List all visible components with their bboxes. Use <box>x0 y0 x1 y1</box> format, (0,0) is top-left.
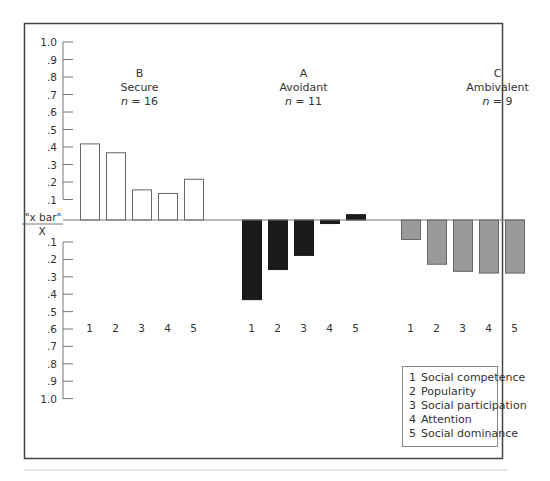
attachment-bar-chart: 1.0.9.8.7.6.5.4.3.2.1.1.2.3.4.5.6.7.8.91… <box>0 0 550 481</box>
x-tick-label: 5 <box>511 322 518 334</box>
y-tick-label: .2 <box>47 176 57 188</box>
x-tick-label: 2 <box>274 322 281 334</box>
y-tick-label: .8 <box>47 71 57 83</box>
x-tick-label: 5 <box>190 322 197 334</box>
group-name: Secure <box>121 81 159 94</box>
y-tick-label: .8 <box>47 358 57 370</box>
bar-avoidant-4 <box>321 220 340 224</box>
x-tick-label: 3 <box>459 322 466 334</box>
bar-avoidant-2 <box>269 220 288 270</box>
y-tick-label: .2 <box>47 253 57 265</box>
group-name: Avoidant <box>279 81 328 94</box>
y-tick-label: .6 <box>47 106 57 118</box>
group-code: B <box>136 67 144 80</box>
x-tick-label: 1 <box>86 322 93 334</box>
x-tick-label: 2 <box>433 322 440 334</box>
y-tick-label: .5 <box>47 306 57 318</box>
group-n: n = 11 <box>285 95 322 108</box>
y-tick-label: .9 <box>47 54 57 66</box>
bar-secure-5 <box>185 179 204 220</box>
legend: 1Social competence2Popularity3Social par… <box>403 367 527 447</box>
y-tick-label: .3 <box>47 159 57 171</box>
bar-ambivalent-5 <box>506 220 525 273</box>
bar-ambivalent-1 <box>402 220 421 239</box>
bar-avoidant-3 <box>295 220 314 255</box>
legend-entry-label: Social dominance <box>421 427 518 440</box>
bar-avoidant-5 <box>347 215 366 220</box>
y-tick-label: 1.0 <box>40 36 57 48</box>
group-name: Ambivalent <box>466 81 529 94</box>
legend-entry-num: 3 <box>409 399 416 412</box>
x-tick-label: 4 <box>485 322 492 334</box>
bar-ambivalent-2 <box>428 220 447 264</box>
x-tick-label: 4 <box>326 322 333 334</box>
bar-secure-1 <box>81 144 100 220</box>
legend-entry-label: Social competence <box>421 371 525 384</box>
x-tick-label: 1 <box>248 322 255 334</box>
y-tick-label: .3 <box>47 271 57 283</box>
legend-entry-label: Social participation <box>421 399 527 412</box>
y-axis-label-bottom: X <box>38 225 45 237</box>
y-tick-label: 1.0 <box>40 393 57 405</box>
y-tick-label: .1 <box>47 194 57 206</box>
group-n: n = 9 <box>482 95 512 108</box>
y-tick-label: .7 <box>47 340 57 352</box>
legend-entry-label: Popularity <box>421 385 477 398</box>
x-tick-label: 4 <box>164 322 171 334</box>
x-tick-label: 3 <box>138 322 145 334</box>
x-tick-label: 2 <box>112 322 119 334</box>
x-tick-labels: 123451234512345 <box>86 322 518 334</box>
group-code: A <box>300 67 308 80</box>
y-tick-label: .4 <box>47 288 57 300</box>
group-n: n = 16 <box>121 95 158 108</box>
bar-secure-4 <box>159 193 178 220</box>
bar-ambivalent-4 <box>480 220 499 273</box>
bar-secure-3 <box>133 190 152 220</box>
legend-entry-num: 2 <box>409 385 416 398</box>
y-tick-label: .6 <box>47 323 57 335</box>
x-tick-label: 5 <box>352 322 359 334</box>
legend-entry-num: 1 <box>409 371 416 384</box>
x-tick-label: 3 <box>300 322 307 334</box>
group-code: C <box>494 67 502 80</box>
legend-entry-num: 4 <box>409 413 416 426</box>
bar-ambivalent-3 <box>454 220 473 271</box>
y-tick-label: .4 <box>47 141 57 153</box>
bar-secure-2 <box>107 153 126 220</box>
y-axis-label-top: "x bar" <box>25 211 62 223</box>
bars <box>81 144 525 300</box>
bar-avoidant-1 <box>243 220 262 300</box>
legend-entry-num: 5 <box>409 427 416 440</box>
legend-entry-label: Attention <box>421 413 472 426</box>
y-tick-label: .1 <box>47 236 57 248</box>
y-tick-label: .5 <box>47 124 57 136</box>
x-tick-label: 1 <box>407 322 414 334</box>
y-tick-label: .9 <box>47 375 57 387</box>
group-labels: BSecuren = 16AAvoidantn = 11CAmbivalentn… <box>121 67 530 108</box>
y-tick-label: .7 <box>47 89 57 101</box>
